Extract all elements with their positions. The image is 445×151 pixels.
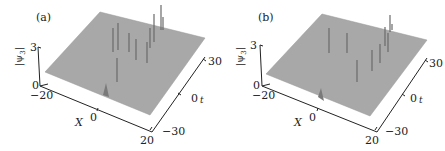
t-axis-label: t <box>419 96 423 105</box>
x-axis-label: X <box>294 117 302 128</box>
panel-b: (b) 3 0 |ψ3| −20 0 20 X 30 0 t −30 <box>222 0 444 151</box>
x-axis-label: X <box>75 117 83 128</box>
surface-plot-a <box>0 0 222 151</box>
panel-label: (a) <box>36 12 51 23</box>
x-tick-0: 0 <box>90 112 97 123</box>
surface-plot-b <box>222 0 444 151</box>
t-tick-m30: −30 <box>162 126 185 137</box>
t-tick-m30: −30 <box>385 126 408 137</box>
t-axis-label: t <box>200 96 204 105</box>
x-tick-0: 0 <box>309 112 316 123</box>
panel-label: (b) <box>258 12 274 23</box>
x-tick-20: 20 <box>365 135 379 146</box>
x-tick-m20: −20 <box>30 90 53 101</box>
z-tick-3: 3 <box>30 42 37 53</box>
t-tick-0: 0 <box>410 93 417 104</box>
t-tick-30: 30 <box>208 56 222 67</box>
z-axis-label: |ψ3| <box>14 47 27 66</box>
t-tick-0: 0 <box>191 93 198 104</box>
t-tick-30: 30 <box>429 58 443 69</box>
x-tick-m20: −20 <box>252 90 275 101</box>
panel-a: (a) 3 0 |ψ3| −20 0 20 X 30 0 t −30 <box>0 0 222 151</box>
z-axis-label: |ψ3| <box>235 47 248 66</box>
z-tick-3: 3 <box>250 40 257 51</box>
x-tick-20: 20 <box>140 135 154 146</box>
